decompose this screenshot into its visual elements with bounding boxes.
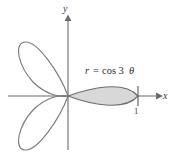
equation-theta: θ xyxy=(129,65,134,76)
equation-annotation: r = cos 3 θ xyxy=(85,65,134,76)
equation-r: r xyxy=(85,65,90,76)
tick-label-one: 1 xyxy=(134,106,138,116)
x-axis-arrow-icon xyxy=(156,93,163,100)
upper-left-petal xyxy=(19,42,68,97)
polar-rose-figure: x y 1 r = cos 3 θ xyxy=(0,0,174,161)
x-axis-label: x xyxy=(162,90,168,101)
y-axis-label: y xyxy=(62,3,68,14)
equation-rhs: cos 3 xyxy=(102,65,124,76)
equation-equals: = xyxy=(93,65,99,76)
rose-curve-svg: x y 1 r = cos 3 θ xyxy=(0,0,174,161)
y-axis-arrow-icon xyxy=(65,15,72,22)
lower-left-petal xyxy=(19,96,68,151)
right-petal-shaded-region xyxy=(68,87,138,105)
